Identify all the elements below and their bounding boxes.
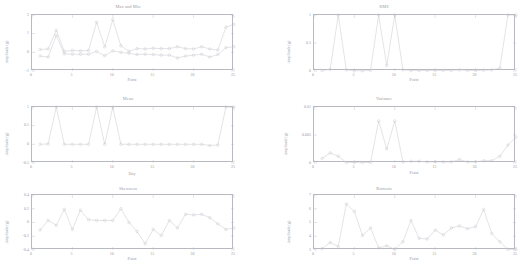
x-tick-label: 20 [467, 164, 483, 169]
x-tick-label: 25 [507, 72, 522, 77]
x-tick-label: 25 [507, 164, 522, 169]
x-axis-label: Day [31, 171, 233, 176]
plot-area [313, 14, 515, 70]
x-tick-label: 15 [426, 164, 442, 169]
y-tick-label: 0.2 [9, 206, 29, 211]
x-tick-label: 5 [345, 251, 361, 256]
x-tick-label: 10 [104, 72, 120, 77]
x-tick-label: 15 [144, 72, 160, 77]
panel-title: Mean [0, 96, 256, 101]
x-tick-label: 0 [23, 164, 39, 169]
y-tick-label: 0.4 [9, 192, 29, 197]
panel-title: Variance [256, 96, 512, 101]
panel-max-and-min: Max and Min Amplitude (g) Point -1012 05… [0, 4, 256, 92]
panel-title: RMS [256, 4, 512, 9]
x-tick-label: 10 [104, 164, 120, 169]
data-line [40, 20, 234, 52]
y-tick-label: 6 [291, 206, 311, 211]
x-tick-label: 0 [305, 72, 321, 77]
data-marker [233, 23, 236, 26]
x-tick-label: 20 [185, 164, 201, 169]
y-tick-label: 4 [291, 233, 311, 238]
y-axis-label: Amplitude (g) [4, 210, 9, 244]
y-tick-label: 1 [9, 30, 29, 35]
y-axis-label: Amplitude (g) [286, 30, 291, 64]
plot-lines [314, 107, 516, 163]
x-tick-label: 0 [23, 251, 39, 256]
y-axis-label: Amplitude (g) [286, 210, 291, 244]
plot-lines [32, 15, 234, 71]
x-tick-label: 0 [23, 72, 39, 77]
panel-mean: Mean Amplitude (g) Day -0.500.51 0510152… [0, 96, 256, 184]
x-axis-label: Point [313, 77, 515, 82]
y-axis-label: Amplitude (g) [4, 30, 9, 64]
y-axis-label: Amplitude (g) [283, 122, 288, 156]
x-tick-label: 5 [345, 72, 361, 77]
data-line [40, 107, 234, 145]
y-tick-label: 0.5 [291, 40, 311, 45]
y-tick-label: -0.2 [9, 233, 29, 238]
y-tick-label: 0 [9, 49, 29, 54]
x-tick-label: 15 [426, 72, 442, 77]
plot-area [31, 14, 233, 70]
x-tick-label: 15 [144, 251, 160, 256]
plot-lines [32, 195, 234, 250]
x-tick-label: 20 [467, 72, 483, 77]
x-tick-label: 10 [104, 251, 120, 256]
x-tick-label: 10 [386, 72, 402, 77]
x-tick-label: 0 [305, 164, 321, 169]
x-tick-label: 25 [507, 251, 522, 256]
panel-rms: RMS Amplitude (g) Point 00.51 0510152025 [256, 4, 512, 92]
x-tick-label: 0 [305, 251, 321, 256]
panel-title: Kurtosis [256, 186, 512, 191]
plot-area [31, 194, 233, 249]
y-tick-label: 5 [291, 219, 311, 224]
x-tick-label: 20 [185, 72, 201, 77]
x-tick-label: 10 [386, 164, 402, 169]
plot-area [31, 106, 233, 162]
panel-kurtosis: Kurtosis Amplitude (g) Point 34567 05101… [256, 186, 512, 274]
x-tick-label: 15 [426, 251, 442, 256]
y-tick-label: 0.005 [291, 132, 311, 137]
plot-area [313, 194, 515, 249]
x-axis-label: Point [313, 170, 515, 175]
plot-area [313, 106, 515, 162]
x-tick-label: 25 [225, 72, 241, 77]
panel-variance: Variance Amplitude (g) Point 00.0050.01 … [256, 96, 512, 184]
data-line [322, 121, 516, 162]
data-line [40, 209, 234, 244]
y-tick-label: 0 [9, 219, 29, 224]
x-tick-label: 20 [185, 251, 201, 256]
x-tick-label: 5 [63, 164, 79, 169]
y-tick-label: 7 [291, 192, 311, 197]
x-tick-label: 25 [225, 251, 241, 256]
panel-skewness: Skewness Amplitude (g) Point -0.4-0.200.… [0, 186, 256, 274]
y-tick-label: 0 [9, 141, 29, 146]
data-line [322, 15, 516, 71]
plot-lines [32, 107, 234, 163]
y-tick-label: 1 [9, 104, 29, 109]
x-tick-label: 5 [63, 251, 79, 256]
x-axis-label: Point [31, 77, 233, 82]
plot-lines [314, 195, 516, 250]
plot-lines [314, 15, 516, 71]
x-axis-label: Point [313, 256, 515, 261]
x-tick-label: 5 [63, 72, 79, 77]
y-axis-label: Amplitude (g) [4, 122, 9, 156]
panel-title: Skewness [0, 186, 256, 191]
data-line [40, 36, 234, 58]
x-tick-label: 25 [225, 164, 241, 169]
x-axis-label: Point [31, 256, 233, 261]
x-tick-label: 15 [144, 164, 160, 169]
x-tick-label: 10 [386, 251, 402, 256]
x-tick-label: 20 [467, 251, 483, 256]
y-tick-label: 0.01 [291, 104, 311, 109]
panel-title: Max and Min [0, 4, 256, 9]
x-tick-label: 5 [345, 164, 361, 169]
y-tick-label: 2 [9, 12, 29, 17]
data-line [322, 204, 516, 249]
y-tick-label: 1 [291, 12, 311, 17]
y-tick-label: 0.5 [9, 122, 29, 127]
